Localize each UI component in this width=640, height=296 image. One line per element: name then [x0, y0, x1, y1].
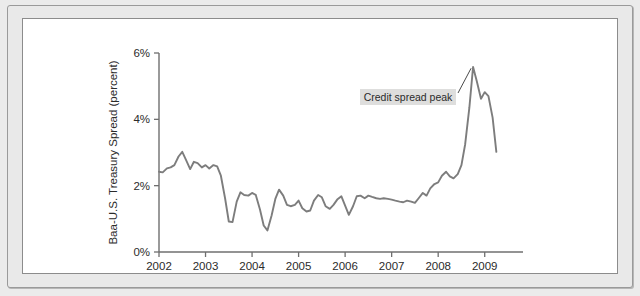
x-tick-label: 2007: [379, 260, 405, 272]
x-tick-label: 2002: [146, 260, 172, 272]
x-tick-label: 2006: [332, 260, 358, 272]
y-tick-label: 0%: [133, 246, 150, 258]
chart-canvas: 0%2%4%6%20022003200420052006200720082009…: [23, 19, 619, 274]
figure-frame: 0%2%4%6%20022003200420052006200720082009…: [7, 5, 633, 288]
annotation-label: Credit spread peak: [364, 91, 453, 103]
y-axis-title: Baa-U.S. Treasury Spread (percent): [107, 60, 119, 244]
figure-panel: 0%2%4%6%20022003200420052006200720082009…: [22, 18, 618, 274]
y-tick-label: 4%: [133, 113, 150, 125]
x-tick-label: 2004: [239, 260, 265, 272]
annotation-leader-line: [458, 68, 471, 93]
x-tick-label: 2003: [193, 260, 219, 272]
x-tick-label: 2005: [286, 260, 312, 272]
credit-spread-chart: 0%2%4%6%20022003200420052006200720082009…: [23, 19, 617, 273]
y-tick-label: 2%: [133, 180, 150, 192]
y-tick-label: 6%: [133, 47, 150, 59]
x-tick-label: 2008: [425, 260, 451, 272]
x-tick-label: 2009: [472, 260, 498, 272]
